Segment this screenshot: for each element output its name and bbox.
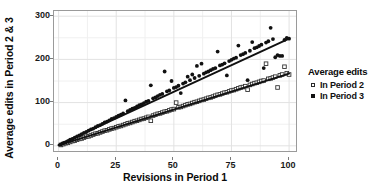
x-axis-ticks: 0255075100 bbox=[0, 157, 384, 169]
plot-panel bbox=[53, 10, 297, 152]
data-point-period-3 bbox=[193, 76, 197, 80]
x-tick-label: 100 bbox=[273, 161, 303, 170]
data-point-period-3 bbox=[149, 83, 153, 87]
data-point-period-3 bbox=[197, 74, 201, 78]
legend: Average edits In Period 2 In Period 3 bbox=[308, 66, 382, 102]
y-tick-label: 0 bbox=[24, 140, 50, 149]
data-point-period-3 bbox=[266, 39, 270, 43]
data-point-period-3 bbox=[250, 40, 254, 44]
data-point-period-3 bbox=[225, 73, 229, 77]
data-point-period-3 bbox=[236, 44, 240, 48]
data-point-period-3 bbox=[262, 66, 266, 70]
data-point-period-3 bbox=[183, 80, 187, 84]
x-tick-label: 50 bbox=[158, 161, 188, 170]
data-point-period-3 bbox=[177, 84, 181, 88]
data-point-period-3 bbox=[260, 43, 264, 47]
data-point-period-2 bbox=[174, 101, 178, 105]
legend-label-period-3: In Period 3 bbox=[320, 91, 364, 101]
legend-item-period-3[interactable]: In Period 3 bbox=[308, 91, 382, 101]
data-point-period-2 bbox=[149, 119, 153, 123]
data-point-period-3 bbox=[271, 37, 275, 41]
y-tick-label: 100 bbox=[24, 97, 50, 106]
y-tick-label: 200 bbox=[24, 54, 50, 63]
data-point-period-3 bbox=[248, 49, 252, 53]
data-point-period-3 bbox=[269, 26, 273, 30]
data-point-period-3 bbox=[280, 54, 284, 58]
x-tick-label: 25 bbox=[100, 161, 130, 170]
data-point-period-3 bbox=[179, 91, 183, 95]
data-point-period-3 bbox=[216, 50, 220, 54]
data-point-period-3 bbox=[190, 73, 194, 77]
legend-item-period-2[interactable]: In Period 2 bbox=[308, 80, 382, 90]
data-point-period-3 bbox=[243, 51, 247, 55]
data-point-period-3 bbox=[223, 61, 227, 65]
data-point-period-3 bbox=[186, 75, 190, 79]
filled-square-icon bbox=[308, 92, 317, 101]
open-square-icon bbox=[308, 81, 317, 90]
legend-title: Average edits bbox=[308, 66, 382, 77]
y-axis-label: Average edits in Period 2 & 3 bbox=[2, 8, 16, 168]
data-point-period-3 bbox=[170, 79, 174, 83]
x-tick-label: 75 bbox=[215, 161, 245, 170]
x-tick-label: 0 bbox=[43, 161, 73, 170]
data-point-period-2 bbox=[283, 65, 287, 69]
x-axis-label: Revisions in Period 1 bbox=[53, 171, 297, 183]
data-point-period-3 bbox=[234, 56, 238, 60]
data-point-period-3 bbox=[200, 62, 204, 66]
data-point-period-3 bbox=[167, 89, 171, 93]
data-point-period-3 bbox=[246, 78, 250, 82]
data-point-period-2 bbox=[264, 62, 268, 66]
data-point-period-3 bbox=[213, 66, 217, 70]
data-point-period-3 bbox=[188, 78, 192, 82]
data-point-period-3 bbox=[124, 99, 128, 103]
data-point-period-2 bbox=[276, 86, 280, 90]
data-point-period-2 bbox=[246, 88, 250, 92]
plot-area bbox=[54, 11, 296, 151]
data-point-period-3 bbox=[195, 64, 199, 68]
legend-label-period-2: In Period 2 bbox=[320, 80, 364, 90]
y-tick-label: 300 bbox=[24, 11, 50, 20]
scatter-chart: Average edits in Period 2 & 3 0100200300… bbox=[0, 0, 384, 192]
data-point-period-3 bbox=[160, 92, 164, 96]
data-point-period-3 bbox=[163, 70, 167, 74]
